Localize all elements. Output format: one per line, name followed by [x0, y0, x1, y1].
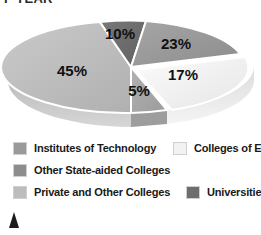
legend-item-other-state-aided-colleges[interactable]: Other State-aided Colleges [13, 160, 176, 180]
legend-row: Other State-aided Colleges [13, 160, 176, 180]
pie-chart-svg: 45% 10% 23% 17% 5% [0, 8, 261, 133]
legend-item-institutes-of-technology[interactable]: Institutes of Technology [13, 138, 161, 158]
legend-item-universities[interactable]: Universities [186, 182, 261, 202]
legend-row: Private and Other Colleges Universities [13, 182, 261, 202]
pie-label-5: 5% [128, 82, 150, 99]
cropped-title-fragment: F YEAR [4, 0, 84, 3]
legend-item-label: Universities [207, 186, 261, 198]
pie-label-45: 45% [57, 62, 87, 79]
legend-row: Institutes of Technology Colleges of Edu… [13, 138, 261, 158]
up-arrow-icon [9, 212, 19, 228]
chart-legend: Institutes of Technology Colleges of Edu… [0, 136, 261, 208]
legend-swatch-icon [13, 164, 27, 177]
legend-swatch-icon [13, 142, 27, 155]
legend-swatch-icon [13, 186, 27, 199]
legend-item-label: Private and Other Colleges [34, 186, 170, 198]
legend-item-private-and-other-colleges[interactable]: Private and Other Colleges [13, 182, 176, 202]
legend-item-label: Other State-aided Colleges [34, 164, 170, 176]
pie-chart: 45% 10% 23% 17% 5% [0, 8, 261, 133]
legend-swatch-icon [186, 186, 200, 199]
legend-item-label: Institutes of Technology [34, 142, 156, 154]
legend-item-colleges-of-education[interactable]: Colleges of Education [173, 138, 261, 158]
legend-item-label: Colleges of Education [194, 142, 261, 154]
legend-swatch-icon [173, 142, 187, 155]
pie-label-23: 23% [161, 35, 191, 52]
pie-label-10: 10% [105, 25, 135, 42]
pie-label-17: 17% [168, 66, 198, 83]
